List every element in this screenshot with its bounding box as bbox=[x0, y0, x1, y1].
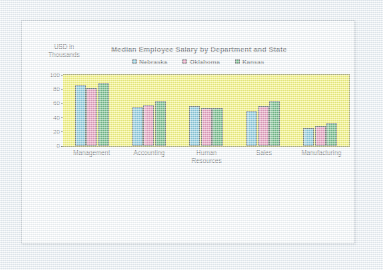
x-axis-label-line: Manufacturing bbox=[294, 149, 349, 157]
legend-label: Nebraska bbox=[139, 58, 167, 65]
x-axis-label: Management bbox=[63, 149, 120, 165]
bar[interactable] bbox=[326, 123, 337, 146]
bar[interactable] bbox=[258, 106, 269, 146]
bar-group bbox=[292, 75, 349, 146]
bar[interactable] bbox=[143, 105, 154, 146]
bar[interactable] bbox=[269, 101, 280, 146]
bar[interactable] bbox=[303, 128, 314, 146]
bar[interactable] bbox=[246, 111, 257, 146]
y-axis-tick: 0 bbox=[46, 143, 63, 149]
x-axis-label-line: Sales bbox=[236, 149, 291, 157]
bar-group bbox=[177, 75, 234, 146]
bar[interactable] bbox=[155, 101, 166, 146]
plot-area: 100806040200 bbox=[63, 74, 350, 147]
legend-swatch-icon bbox=[132, 59, 137, 64]
bar[interactable] bbox=[212, 108, 223, 146]
x-axis-label: Accounting bbox=[120, 149, 177, 165]
bar-chart: Median Employee Salary by Department and… bbox=[22, 21, 354, 243]
y-axis-title-line-1: USD in bbox=[36, 43, 92, 51]
bar[interactable] bbox=[315, 126, 326, 146]
x-axis-labels: ManagementAccountingHumanResourcesSalesM… bbox=[63, 149, 350, 165]
y-axis-tick-label: 100 bbox=[46, 72, 60, 78]
y-axis-tick-label: 60 bbox=[46, 100, 60, 106]
bar[interactable] bbox=[132, 107, 143, 146]
y-axis-tick-label: 40 bbox=[46, 115, 60, 121]
legend-item-kansas: Kansas bbox=[235, 58, 265, 65]
x-axis-label-line: Accounting bbox=[121, 149, 176, 157]
y-axis-tick-label: 80 bbox=[46, 86, 60, 92]
bar[interactable] bbox=[98, 83, 109, 146]
screenshot-canvas: Median Employee Salary by Department and… bbox=[0, 0, 383, 270]
legend-swatch-icon bbox=[182, 59, 187, 64]
bar[interactable] bbox=[189, 106, 200, 146]
legend-item-nebraska: Nebraska bbox=[132, 58, 167, 65]
legend-item-oklahoma: Oklahoma bbox=[182, 58, 219, 65]
bar-group bbox=[63, 75, 120, 146]
x-axis-label-line: Management bbox=[64, 149, 119, 157]
bar[interactable] bbox=[75, 85, 86, 146]
legend-swatch-icon bbox=[235, 59, 240, 64]
bar[interactable] bbox=[86, 88, 97, 146]
chart-legend: Nebraska Oklahoma Kansas bbox=[22, 58, 354, 65]
x-axis-label-line: Human bbox=[179, 149, 234, 157]
bar-groups bbox=[63, 75, 349, 146]
y-axis-tick: 60 bbox=[46, 100, 63, 106]
legend-label: Oklahoma bbox=[190, 58, 220, 65]
legend-label: Kansas bbox=[242, 58, 264, 65]
y-axis-tick: 20 bbox=[46, 129, 63, 135]
bar-group bbox=[235, 75, 292, 146]
chart-card: Median Employee Salary by Department and… bbox=[21, 20, 355, 244]
y-axis-tick: 100 bbox=[46, 72, 63, 78]
x-axis-label: Sales bbox=[235, 149, 292, 165]
x-axis-label: Manufacturing bbox=[293, 149, 350, 165]
y-axis-tick-label: 20 bbox=[46, 129, 60, 135]
x-axis-label-line: Resources bbox=[179, 157, 234, 165]
y-axis-tick-label: 0 bbox=[46, 143, 60, 149]
x-axis-label: HumanResources bbox=[178, 149, 235, 165]
bar-group bbox=[120, 75, 177, 146]
y-axis-tick: 40 bbox=[46, 115, 63, 121]
y-axis-tick: 80 bbox=[46, 86, 63, 92]
bar[interactable] bbox=[201, 108, 212, 146]
